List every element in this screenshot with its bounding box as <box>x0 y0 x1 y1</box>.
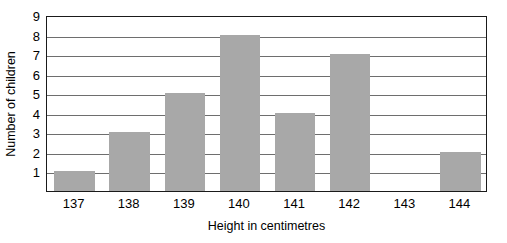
y-tick-label: 2 <box>20 146 40 159</box>
y-tick-label: 1 <box>20 166 40 179</box>
x-axis-title: Height in centimetres <box>46 219 487 233</box>
bar <box>440 152 481 191</box>
x-tick-label: 138 <box>101 195 156 213</box>
plot-inner <box>47 17 486 191</box>
x-tick-label: 142 <box>322 195 377 213</box>
x-tick-label: 137 <box>46 195 101 213</box>
x-tick-label: 144 <box>432 195 487 213</box>
y-tick-label: 4 <box>20 107 40 120</box>
bar-chart-figure: Number of children 987654321 13713813914… <box>0 0 507 243</box>
bar <box>220 35 261 191</box>
x-tick-label: 140 <box>211 195 266 213</box>
y-tick-label: 5 <box>20 88 40 101</box>
bar <box>109 132 150 191</box>
x-tick-label: 139 <box>156 195 211 213</box>
y-tick-label: 8 <box>20 29 40 42</box>
plot-area <box>46 16 487 192</box>
y-tick-label: 6 <box>20 68 40 81</box>
bar <box>54 171 95 191</box>
bar <box>275 113 316 191</box>
bar <box>330 54 371 191</box>
bar <box>165 93 206 191</box>
x-tick-label: 143 <box>377 195 432 213</box>
x-axis-tick-labels: 137138139140141142143144 <box>46 195 487 215</box>
y-tick-label: 7 <box>20 49 40 62</box>
y-axis-tick-labels: 987654321 <box>22 16 42 192</box>
x-tick-label: 141 <box>267 195 322 213</box>
bar-series <box>47 17 486 191</box>
y-axis-title: Number of children <box>0 16 22 192</box>
y-tick-label: 3 <box>20 127 40 140</box>
y-tick-label: 9 <box>20 10 40 23</box>
